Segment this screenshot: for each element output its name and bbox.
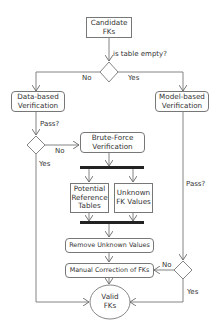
label-top-no: No [82,74,92,82]
edge-yes-to-valid-left [36,154,89,302]
node-unknown-fk-values: Unknown FK Values [114,183,153,213]
node-data-based-verification: Data-based Verification [11,91,65,112]
label-right-no: No [162,261,172,269]
decision-diamond-empty [100,62,118,82]
label-is-table-empty: is table empty? [113,50,167,58]
label-right-pass: Pass? [186,180,205,188]
label-left-yes: Yes [39,160,50,168]
flowchart-connectors [0,0,216,332]
fork-bar [80,166,144,169]
decision-diamond-data-pass [27,136,45,154]
edge-yes-to-valid-right [130,279,183,302]
node-brute-force-verification: Brute-Force Verification [80,132,145,153]
node-remove-unknown-values: Remove Unknown Values [65,238,154,253]
node-model-based-verification: Model-based Verification [155,91,209,112]
label-left-pass: Pass? [40,120,59,128]
decision-diamond-model-pass [174,261,192,279]
label-top-yes: Yes [128,74,139,82]
node-valid-fks-label: Valid FKs [92,292,128,312]
node-candidate-fks: Candidate FKs [86,17,132,38]
label-left-no: No [55,147,65,155]
label-right-yes: Yes [187,288,198,296]
node-potential-reference-tables: Potential Reference Tables [70,183,109,213]
node-manual-correction: Manual Correction of FKs [65,263,154,278]
join-bar [80,221,144,224]
